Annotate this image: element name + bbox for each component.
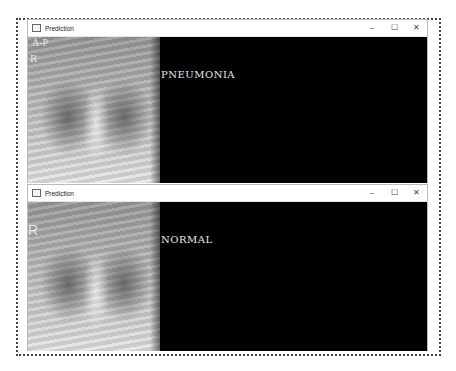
- chest-xray-image: [28, 202, 160, 351]
- minimize-button[interactable]: –: [361, 20, 383, 36]
- chest-xray-image: [28, 37, 160, 183]
- title-bar[interactable]: Prediction – ☐ ✕: [28, 20, 427, 37]
- close-button[interactable]: ✕: [405, 185, 427, 201]
- window-title: Prediction: [45, 25, 361, 32]
- title-bar[interactable]: Prediction – ☐ ✕: [28, 185, 427, 202]
- minimize-button[interactable]: –: [361, 185, 383, 201]
- close-button[interactable]: ✕: [405, 20, 427, 36]
- prediction-canvas: R NORMAL: [28, 202, 427, 351]
- xray-marker-r: R: [30, 52, 37, 64]
- app-icon: [32, 24, 41, 32]
- prediction-window-pneumonia[interactable]: Prediction – ☐ ✕ A-P R PNEUMONIA: [27, 19, 428, 183]
- maximize-button[interactable]: ☐: [383, 185, 405, 201]
- xray-marker-r: R: [28, 222, 38, 238]
- prediction-window-normal[interactable]: Prediction – ☐ ✕ R NORMAL: [27, 184, 428, 351]
- prediction-label: PNEUMONIA: [161, 69, 235, 80]
- window-title: Prediction: [45, 190, 361, 197]
- maximize-button[interactable]: ☐: [383, 20, 405, 36]
- app-icon: [32, 189, 41, 197]
- prediction-label: NORMAL: [161, 234, 213, 245]
- xray-marker-ap: A-P: [32, 37, 48, 48]
- prediction-canvas: A-P R PNEUMONIA: [28, 37, 427, 183]
